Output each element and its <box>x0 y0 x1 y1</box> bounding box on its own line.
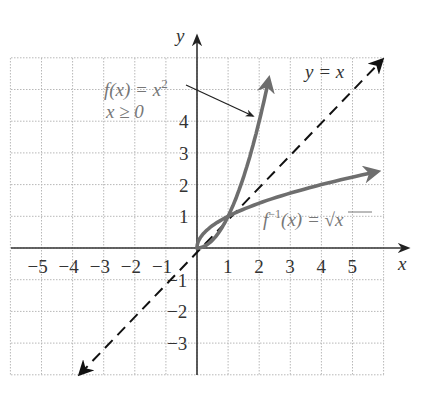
y-tick-labels: 4321−1−2−3 <box>167 111 189 354</box>
x-tick-label: −4 <box>59 256 80 277</box>
x-tick-label: 4 <box>316 256 326 277</box>
x-tick-label: 3 <box>285 256 295 277</box>
y-axis-label: y <box>174 25 185 46</box>
y-tick-label: −2 <box>167 301 187 322</box>
f-domain-label: x ≥ 0 <box>105 101 144 122</box>
y-tick-label: 1 <box>179 206 189 227</box>
x-tick-label: −2 <box>121 256 141 277</box>
x-axis-label: x <box>397 253 407 274</box>
inverse-label: f−1(x) = √x <box>263 207 344 231</box>
x-tick-label: −5 <box>28 256 48 277</box>
x-tick-label: −3 <box>90 256 110 277</box>
y-tick-label: 3 <box>179 143 189 164</box>
x-tick-label: 2 <box>254 256 264 277</box>
identity-label: y = x <box>303 61 345 82</box>
graph: −5−4−3−2−112345 4321−1−2−3 x y f(x) = x2… <box>0 0 424 395</box>
y-tick-label: 4 <box>179 111 189 132</box>
f-label: f(x) = x2 <box>104 76 168 101</box>
x-tick-labels: −5−4−3−2−112345 <box>28 256 358 277</box>
f-curve <box>197 80 269 248</box>
x-tick-label: 5 <box>348 256 358 277</box>
y-tick-label: −3 <box>167 333 187 354</box>
y-tick-label: 2 <box>179 175 189 196</box>
x-tick-label: 1 <box>223 256 233 277</box>
